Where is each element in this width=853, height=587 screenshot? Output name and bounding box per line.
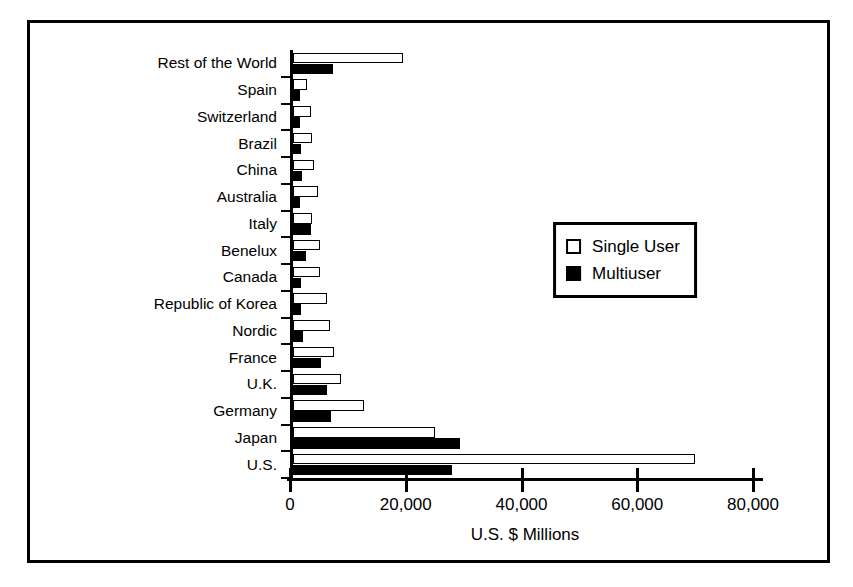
bar-multiuser	[293, 224, 311, 235]
category-label: Nordic	[232, 323, 277, 339]
x-axis-tick	[521, 478, 524, 492]
category-label: Germany	[213, 403, 277, 419]
bar-row: Rest of the World	[290, 50, 760, 77]
category-label: Benelux	[221, 243, 277, 259]
x-axis-tick-label: 20,000	[380, 496, 432, 513]
x-axis-title: U.S. $ Millions	[290, 526, 760, 543]
bar-single-user	[293, 293, 327, 304]
category-tick	[281, 370, 290, 372]
bar-multiuser	[293, 304, 301, 315]
bar-single-user	[293, 320, 330, 331]
category-tick	[281, 236, 290, 238]
bar-multiuser	[293, 64, 333, 75]
category-tick	[281, 210, 290, 212]
bar-multiuser	[293, 278, 301, 289]
bar-multiuser	[293, 117, 300, 128]
category-tick	[281, 424, 290, 426]
bar-single-user	[293, 160, 314, 171]
x-axis-tick-inner	[752, 468, 755, 479]
bar-single-user	[293, 53, 403, 64]
category-tick	[281, 76, 290, 78]
bar-multiuser	[293, 90, 300, 101]
category-tick	[281, 290, 290, 292]
bar-multiuser	[293, 358, 321, 369]
category-label: Canada	[223, 269, 277, 285]
x-axis-tick-label: 80,000	[727, 496, 779, 513]
category-label: France	[229, 350, 277, 366]
category-tick	[281, 343, 290, 345]
category-label: U.K.	[247, 376, 277, 392]
bar-row: U.K.	[290, 371, 760, 398]
bar-multiuser	[293, 465, 452, 476]
bar-single-user	[293, 427, 435, 438]
x-axis-tick-inner	[521, 468, 524, 479]
bar-row: Spain	[290, 77, 760, 104]
category-label: Australia	[217, 189, 277, 205]
bar-multiuser	[293, 197, 300, 208]
bar-single-user	[293, 240, 320, 251]
bar-row: Japan	[290, 425, 760, 452]
bar-multiuser	[293, 385, 327, 396]
x-axis-tick-label: 40,000	[496, 496, 548, 513]
bar-single-user	[293, 186, 318, 197]
legend-swatch-multiuser-icon	[566, 266, 581, 281]
category-label: Spain	[237, 82, 277, 98]
legend-item-multiuser: Multiuser	[566, 260, 680, 287]
bar-single-user	[293, 400, 364, 411]
category-tick	[281, 103, 290, 105]
x-axis-tick-inner	[405, 468, 408, 479]
category-tick	[281, 183, 290, 185]
bar-multiuser	[293, 438, 460, 449]
x-axis-tick-inner	[289, 468, 292, 479]
legend-item-single-user: Single User	[566, 233, 680, 260]
chart-figure: Rest of the WorldSpainSwitzerlandBrazilC…	[0, 0, 853, 587]
bar-multiuser	[293, 144, 301, 155]
category-label: Italy	[249, 216, 277, 232]
bar-multiuser	[293, 411, 331, 422]
bar-single-user	[293, 267, 320, 278]
bar-row: U.S.	[290, 451, 760, 478]
category-label: China	[237, 162, 278, 178]
x-axis-tick-label: 60,000	[611, 496, 663, 513]
x-axis-tick	[636, 478, 639, 492]
bar-single-user	[293, 347, 334, 358]
x-axis-tick	[289, 478, 292, 492]
category-tick	[281, 397, 290, 399]
bar-row: Switzerland	[290, 104, 760, 131]
chart-legend: Single User Multiuser	[553, 222, 697, 298]
x-axis-tick	[405, 478, 408, 492]
bar-single-user	[293, 79, 307, 90]
bar-multiuser	[293, 251, 306, 262]
category-tick	[281, 129, 290, 131]
bar-row: Nordic	[290, 318, 760, 345]
legend-label-single-user: Single User	[592, 238, 680, 255]
category-tick	[281, 450, 290, 452]
value-axis-line	[287, 478, 763, 481]
bar-single-user	[293, 106, 311, 117]
category-label: Japan	[235, 430, 277, 446]
x-axis-tick	[752, 478, 755, 492]
category-tick	[281, 317, 290, 319]
bar-single-user	[293, 213, 312, 224]
category-tick	[281, 156, 290, 158]
legend-label-multiuser: Multiuser	[592, 265, 661, 282]
x-axis-tick-inner	[636, 468, 639, 479]
bar-row: Australia	[290, 184, 760, 211]
category-label: Brazil	[238, 136, 277, 152]
bar-multiuser	[293, 171, 302, 182]
x-axis-tick-label: 0	[285, 496, 294, 513]
bar-single-user	[293, 374, 341, 385]
bar-single-user	[293, 133, 312, 144]
bar-row: Brazil	[290, 130, 760, 157]
category-label: Republic of Korea	[154, 296, 277, 312]
bar-multiuser	[293, 331, 303, 342]
category-label: Rest of the World	[158, 55, 277, 71]
bar-row: Germany	[290, 398, 760, 425]
bar-row: France	[290, 344, 760, 371]
bar-row: China	[290, 157, 760, 184]
legend-swatch-single-user-icon	[566, 239, 581, 254]
category-label: Switzerland	[197, 109, 277, 125]
category-tick	[281, 263, 290, 265]
category-label: U.S.	[247, 457, 277, 473]
bar-single-user	[293, 454, 695, 465]
